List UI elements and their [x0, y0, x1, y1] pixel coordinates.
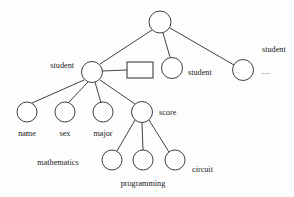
node-student-1[interactable]: [82, 62, 103, 83]
node-student-2[interactable]: [162, 58, 183, 79]
edge-root-to-student-3: [170, 28, 234, 65]
node-sex[interactable]: [55, 102, 75, 122]
tree-diagram: studentstudentstudentnamesexmajorscorema…: [0, 0, 294, 197]
node-label-major: major: [93, 129, 112, 138]
edge-score-to-circuit: [149, 120, 169, 152]
nodes-layer: [17, 11, 254, 170]
edge-student-1-to-unnamed-box: [102, 70, 127, 71]
node-label-student-1: student: [50, 61, 74, 70]
node-label-programming: programming: [121, 179, 166, 188]
edge-score-to-mathematics: [117, 120, 135, 151]
edge-student-1-to-score: [100, 80, 135, 104]
node-label-circuit: circuit: [192, 165, 214, 174]
node-circuit[interactable]: [165, 150, 185, 170]
edge-score-to-programming: [142, 123, 143, 150]
edge-student-1-to-major: [95, 82, 101, 103]
node-student-3[interactable]: [233, 60, 254, 81]
edge-root-to-student-1: [100, 30, 152, 64]
edge-student-1-to-name: [32, 80, 84, 103]
edge-student-1-to-sex: [68, 82, 88, 103]
diagram-canvas: studentstudentstudentnamesexmajorscorema…: [0, 0, 294, 197]
node-label-sex: sex: [60, 129, 71, 138]
edge-root-to-student-2: [163, 33, 170, 57]
node-label-name: name: [18, 129, 36, 138]
node-programming[interactable]: [133, 150, 153, 170]
node-label-student-3: student: [262, 45, 286, 54]
node-name[interactable]: [17, 102, 37, 122]
node-major[interactable]: [93, 102, 113, 122]
node-mathematics[interactable]: [102, 150, 122, 170]
node-label-mathematics: mathematics: [37, 158, 78, 167]
ellipsis-label: ...: [262, 67, 270, 76]
node-unnamed-box[interactable]: [127, 62, 153, 78]
node-label-score: score: [159, 108, 177, 117]
node-score[interactable]: [132, 102, 153, 123]
node-root[interactable]: [149, 11, 171, 33]
node-label-student-2: student: [188, 68, 212, 77]
